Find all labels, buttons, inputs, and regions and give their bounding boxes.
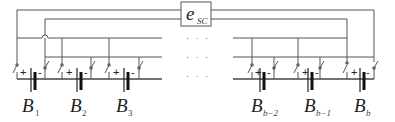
label-bb: B bbox=[354, 95, 366, 116]
label-b2-sub: 2 bbox=[82, 108, 87, 118]
switch-contact-icon bbox=[250, 63, 254, 67]
label-b2: B bbox=[70, 95, 82, 116]
polarity-minus: - bbox=[366, 66, 370, 78]
switch-minus-icon[interactable] bbox=[91, 61, 95, 68]
switch-minus-icon[interactable] bbox=[139, 61, 143, 68]
switch-contact-icon bbox=[15, 63, 19, 67]
switch-contact-icon bbox=[296, 63, 300, 67]
label-b3-sub: 3 bbox=[128, 108, 133, 118]
switch-contact-icon bbox=[345, 61, 349, 65]
battery-unit-1: + - bbox=[13, 61, 49, 92]
polarity-minus: - bbox=[84, 66, 88, 78]
switch-minus-icon[interactable] bbox=[45, 61, 49, 68]
battery-unit-3: + - bbox=[105, 61, 143, 92]
polarity-plus: + bbox=[20, 66, 26, 78]
polarity-plus: + bbox=[66, 66, 72, 78]
battery-unit-b: + - bbox=[343, 61, 378, 92]
label-b1: B bbox=[22, 95, 34, 116]
polarity-minus: - bbox=[38, 66, 42, 78]
label-bb-sub: b bbox=[366, 108, 371, 118]
switch-contact-icon bbox=[60, 63, 64, 67]
supercapacitor-block: e SC bbox=[181, 2, 211, 26]
wire-inner-left bbox=[45, 19, 181, 35]
switch-minus-icon[interactable] bbox=[274, 61, 278, 68]
label-bb2: B bbox=[251, 95, 263, 116]
switch-plus-icon[interactable] bbox=[343, 65, 347, 73]
polarity-plus: + bbox=[113, 66, 119, 78]
ellipsis-row-2: · · · bbox=[186, 52, 210, 62]
polarity-plus: + bbox=[351, 66, 357, 78]
switch-minus-icon[interactable] bbox=[374, 61, 378, 68]
label-bb1-sub: b−1 bbox=[316, 108, 331, 118]
label-bb1: B bbox=[304, 95, 316, 116]
wire-jumper bbox=[42, 35, 48, 38]
ellipsis-row-3: · · · bbox=[186, 71, 210, 81]
wire-inner-right bbox=[211, 19, 347, 62]
supercapacitor-symbol: e bbox=[186, 3, 194, 24]
battery-unit-2: + - bbox=[58, 61, 95, 92]
label-bb2-sub: b−2 bbox=[263, 108, 279, 118]
switch-minus-icon[interactable] bbox=[320, 61, 324, 68]
switch-contact-icon bbox=[107, 63, 111, 67]
battery-supercap-circuit-diagram: e SC · · · · · · · · · bbox=[0, 0, 395, 122]
polarity-minus: - bbox=[131, 66, 135, 78]
wire-outer-right bbox=[211, 10, 374, 62]
supercapacitor-subscript: SC bbox=[197, 16, 209, 26]
polarity-minus: - bbox=[267, 66, 271, 78]
ellipsis-row-1: · · · bbox=[186, 33, 210, 43]
label-b3: B bbox=[116, 95, 128, 116]
label-b1-sub: 1 bbox=[35, 108, 40, 118]
battery-labels: B 1 B 2 B 3 B b−2 B b−1 B b bbox=[22, 95, 371, 118]
